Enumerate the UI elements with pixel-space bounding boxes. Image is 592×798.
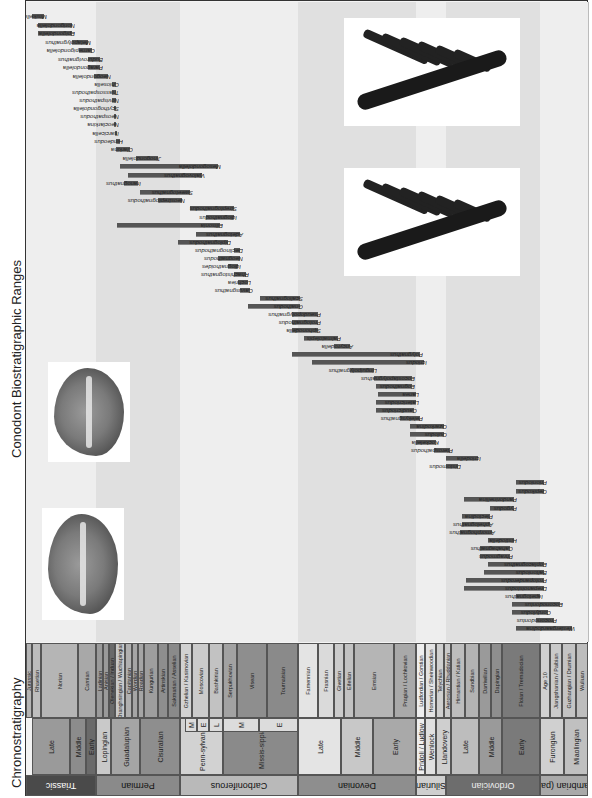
stage-cell: Famennian <box>298 643 318 718</box>
genus-label: Iranognathus <box>106 180 141 187</box>
stage-cell: Emsian <box>354 643 394 718</box>
stage-cell: Capitanian <box>125 643 132 718</box>
series-cell: Guadalupian <box>111 718 140 775</box>
conodont-element-photo-3 <box>344 18 520 126</box>
series-label: Llandovery <box>440 729 447 763</box>
stage-label: Wuliuan <box>579 671 585 691</box>
genus-label: Polygnathus <box>390 351 423 358</box>
stage-cell: Ladinian <box>96 643 103 718</box>
genus-label: Drepanoistodus <box>505 585 547 592</box>
system-label: Ordovician <box>471 781 514 791</box>
genus-label: Icriodus <box>406 359 427 366</box>
stage-cell: Hirnantian / Katian <box>451 643 465 718</box>
genus-label: Linguipolygnathus <box>329 367 377 374</box>
genus-label: Norigondolella <box>37 22 75 29</box>
series-label: Furongian <box>549 731 556 763</box>
genus-label: Gnathodus <box>274 303 303 310</box>
genus-label: Streptognathodus <box>190 205 237 212</box>
genus-label: Latericriodus <box>385 399 419 406</box>
genus-label: Idiognathoides <box>202 263 241 270</box>
stage-label: Norian <box>57 672 63 688</box>
subseries-label: M <box>188 722 195 728</box>
series-cell: Pridoli / Ludlow <box>416 718 425 775</box>
genus-label: Proconodontus <box>517 617 557 624</box>
stage-cell: Ludfordian / Gorstian <box>416 643 425 718</box>
genus-label: Protognathodus <box>279 319 321 326</box>
stage-label: Ludfordian / Gorstian <box>418 655 424 706</box>
stage-cell: Darriwilian <box>479 643 491 718</box>
genus-label: Westergaardodina <box>526 625 575 632</box>
stage-label: Capitanian <box>126 667 132 693</box>
series-cell: Wenlock <box>425 718 436 775</box>
genus-label: Ancyrodella <box>322 343 353 350</box>
stage-label: Carnian <box>84 671 90 690</box>
genus-label: Epigondolella <box>39 30 75 37</box>
stage-label: Givetian <box>336 670 342 690</box>
stage-cell: Jiangshanian / Paibian <box>550 643 562 718</box>
stage-label: Kungurian <box>148 668 154 693</box>
genus-label: Pelekysgnathus <box>381 415 423 422</box>
stage-label: Bashkirian <box>213 668 219 694</box>
genus-label: Cavusgnathus <box>215 287 253 294</box>
genus-label: Metapolygnathus <box>45 39 91 46</box>
genus-label: Scythogondolella <box>73 105 119 112</box>
genus-label: Idiognathodus <box>199 214 237 221</box>
genus-label: Triassospathodus <box>72 89 119 96</box>
genus-label: Phragmodus <box>479 553 513 560</box>
stage-label: Pragian / Lochkovian <box>402 655 408 706</box>
stage-label: Visean <box>249 672 255 689</box>
genus-label: Lanea <box>402 391 419 398</box>
system-cell: Cambrian (part) <box>540 775 588 796</box>
series-label: Pridoli / Ludlow <box>417 723 424 770</box>
stage-cell: Pragian / Lochkovian <box>394 643 416 718</box>
genus-label: Iapetognathus <box>505 593 543 600</box>
stage-label: Changhsingian / Wuchiapingian <box>117 643 123 718</box>
genus-label: Oepikodus <box>518 488 547 495</box>
genus-label: Protopanderodus <box>501 577 547 584</box>
genus-label: Carnepigondolella <box>47 47 95 54</box>
series-cell: Miaolingian <box>564 718 588 775</box>
stage-cell: Age 10 <box>540 643 550 718</box>
subseries-label: E <box>200 723 207 728</box>
subseries-label: M <box>238 722 245 728</box>
genus-label: Isarcicella <box>92 130 119 137</box>
genus-label: Neospathodus <box>80 113 119 120</box>
series-label: Early <box>391 739 398 755</box>
stage-label: Famennian <box>305 667 311 695</box>
series-label: Late <box>48 740 55 754</box>
conodont-element-photo-4 <box>344 168 520 276</box>
system-cell: Silurian <box>416 775 446 796</box>
stage-label: Sakmarian / Asselian <box>171 655 177 706</box>
series-cell: Late <box>32 718 70 775</box>
stage-cell: Guzhangian / Drumian <box>562 643 576 718</box>
genus-label: Aphelognathus <box>453 521 493 528</box>
stage-cell: Wuliuan <box>576 643 588 718</box>
genus-label: Neoclarkina <box>87 121 119 128</box>
stage-label: Guzhangian / Drumian <box>566 653 572 708</box>
genus-label: Pygodus <box>494 505 517 512</box>
series-cell: Middle <box>341 718 373 775</box>
stage-cell: Homerian / Sheinwoodian <box>425 643 436 718</box>
series-label: Guadalupian <box>122 727 129 767</box>
genus-label: Cordylodus <box>521 609 551 616</box>
stage-label: Eifelian <box>346 671 352 689</box>
genus-label: Clarkina <box>111 146 133 153</box>
chronostratigraphy-table: JurassicRhaetianNorianCarnianLadinianAni… <box>26 643 588 796</box>
stage-cell: Artinskian <box>158 643 168 718</box>
series-cell: Llandovery <box>436 718 451 775</box>
stage-cell: Dapingian <box>491 643 502 718</box>
series-label: Middle <box>354 736 361 757</box>
stage-cell: Floian / Tremadocian <box>502 643 540 718</box>
stage-label: Gzhelian / Kasimovian <box>183 653 189 708</box>
stage-cell: Frasnian <box>318 643 334 718</box>
genus-label: Rhachistognathus <box>201 271 249 278</box>
chart-title: Conodont Biostratigraphic Ranges <box>9 260 24 458</box>
stage-cell: Norian <box>41 643 78 718</box>
series-label: Late <box>316 740 323 754</box>
stage-label: Frasnian <box>323 670 329 691</box>
genus-label: Novispathodus <box>79 97 119 104</box>
series-label: Miaolingian <box>573 729 580 764</box>
stage-cell: Telychian <box>436 643 444 718</box>
series-cell: Cisuralian <box>140 718 180 775</box>
genus-label: Pandorinellina <box>479 496 517 503</box>
